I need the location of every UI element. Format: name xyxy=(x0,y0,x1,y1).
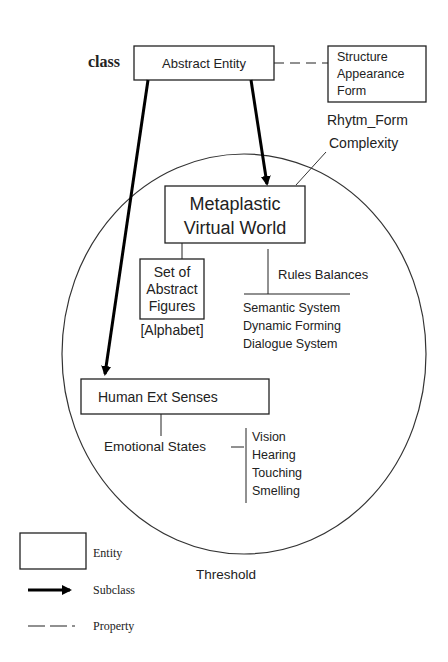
sense-smelling: Smelling xyxy=(252,484,300,498)
sense-vision: Vision xyxy=(252,430,286,444)
legend-entity-swatch xyxy=(20,533,86,569)
metaplastic-line2: Virtual World xyxy=(184,218,286,238)
figures-line3: Figures xyxy=(149,298,196,314)
human-senses-label: Human Ext Senses xyxy=(98,389,218,405)
dialogue-system: Dialogue System xyxy=(243,337,338,351)
sense-touching: Touching xyxy=(252,466,302,480)
threshold-label: Threshold xyxy=(196,567,256,582)
property-form: Form xyxy=(337,84,366,98)
legend: Entity Subclass Property xyxy=(20,533,135,633)
property-appearance: Appearance xyxy=(337,67,404,81)
sense-hearing: Hearing xyxy=(252,448,296,462)
diagram-canvas: class Abstract Entity Structure Appearan… xyxy=(0,0,448,662)
legend-entity-label: Entity xyxy=(93,546,122,560)
emotional-states-label: Emotional States xyxy=(104,439,206,454)
figures-line2: Abstract xyxy=(146,281,197,297)
figures-line1: Set of xyxy=(154,264,191,280)
rhythm-form-label: Rhytm_Form xyxy=(327,112,408,128)
abstract-entity-label: Abstract Entity xyxy=(162,56,246,71)
legend-property-label: Property xyxy=(93,619,134,633)
dynamic-forming: Dynamic Forming xyxy=(243,319,341,333)
property-structure: Structure xyxy=(337,50,388,64)
legend-subclass-label: Subclass xyxy=(93,583,135,597)
complexity-pointer xyxy=(296,152,326,185)
semantic-system: Semantic System xyxy=(243,301,340,315)
metaplastic-line1: Metaplastic xyxy=(189,194,280,214)
rules-balances-label: Rules Balances xyxy=(278,267,369,282)
complexity-label: Complexity xyxy=(329,135,398,151)
class-label: class xyxy=(88,53,120,70)
subclass-arrow-to-metaplastic xyxy=(251,80,267,184)
alphabet-label: [Alphabet] xyxy=(140,322,203,338)
